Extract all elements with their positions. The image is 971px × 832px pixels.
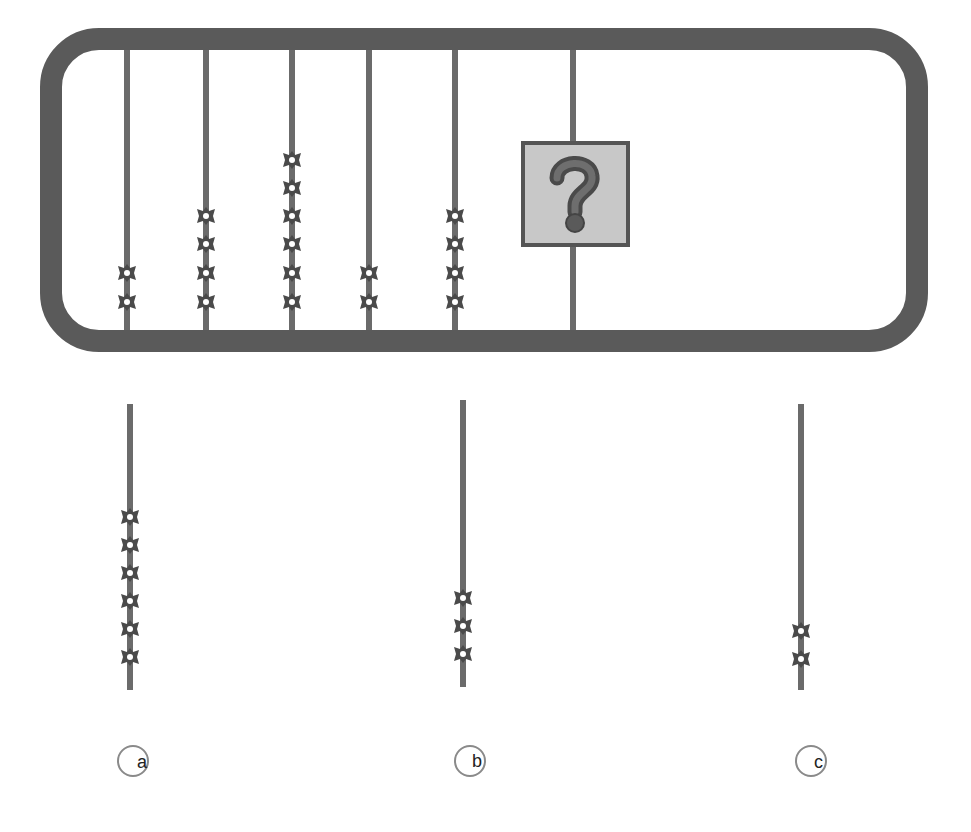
question-mark-icon xyxy=(523,143,628,245)
frame-rods xyxy=(127,50,573,330)
abacus-puzzle xyxy=(0,0,971,832)
option-c[interactable] xyxy=(792,404,810,690)
abacus-frame xyxy=(51,39,917,341)
option-c-label: c xyxy=(814,753,823,771)
option-b[interactable] xyxy=(454,400,472,687)
option-b-label: b xyxy=(472,752,482,770)
option-a[interactable] xyxy=(121,404,139,690)
option-a-label: a xyxy=(137,753,147,771)
